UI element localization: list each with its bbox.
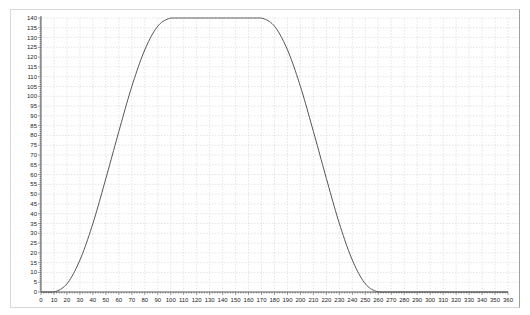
y-tick-label: 105 (27, 84, 38, 90)
x-tick-label: 180 (269, 297, 280, 303)
y-tick-label: 15 (30, 260, 37, 266)
x-tick-label: 310 (438, 297, 449, 303)
line-chart: 0510152025303540455055606570758085909510… (0, 0, 530, 315)
x-tick-label: 280 (399, 297, 410, 303)
y-tick-label: 140 (27, 15, 38, 21)
x-tick-label: 250 (360, 297, 371, 303)
x-tick-label: 270 (386, 297, 397, 303)
y-tick-label: 30 (30, 230, 37, 236)
y-tick-label: 65 (30, 162, 37, 168)
x-tick-label: 0 (39, 297, 43, 303)
x-tick-label: 360 (503, 297, 514, 303)
y-tick-label: 100 (27, 93, 38, 99)
x-tick-label: 350 (490, 297, 501, 303)
y-tick-label: 55 (30, 181, 37, 187)
x-tick-label: 50 (103, 297, 110, 303)
y-tick-label: 35 (30, 221, 37, 227)
x-tick-label: 260 (373, 297, 384, 303)
y-tick-label: 120 (27, 54, 38, 60)
y-tick-label: 10 (30, 269, 37, 275)
x-tick-label: 30 (77, 297, 84, 303)
y-tick-label: 110 (27, 74, 37, 80)
x-tick-label: 210 (308, 297, 319, 303)
y-tick-label: 135 (27, 25, 38, 31)
x-tick-label: 10 (51, 297, 58, 303)
x-tick-label: 40 (90, 297, 97, 303)
y-tick-label: 95 (30, 103, 37, 109)
y-axis-tick-labels: 0510152025303540455055606570758085909510… (27, 15, 38, 295)
y-tick-label: 0 (34, 289, 38, 295)
x-tick-label: 150 (231, 297, 242, 303)
x-tick-label: 170 (257, 297, 268, 303)
x-tick-label: 220 (321, 297, 332, 303)
y-tick-label: 125 (27, 44, 38, 50)
x-tick-label: 110 (179, 297, 189, 303)
x-tick-label: 200 (295, 297, 306, 303)
y-tick-label: 80 (30, 132, 37, 138)
y-tick-label: 70 (30, 152, 37, 158)
y-tick-label: 45 (30, 201, 37, 207)
y-tick-label: 85 (30, 123, 37, 129)
x-tick-label: 190 (282, 297, 293, 303)
x-tick-label: 160 (244, 297, 255, 303)
y-tick-label: 50 (30, 191, 37, 197)
y-tick-label: 25 (30, 240, 37, 246)
x-axis-tick-labels: 0102030405060708090100110120130140150160… (39, 297, 513, 303)
y-tick-label: 115 (27, 64, 37, 70)
x-tick-label: 140 (218, 297, 229, 303)
x-tick-label: 60 (115, 297, 122, 303)
y-tick-label: 20 (30, 250, 37, 256)
y-tick-label: 40 (30, 211, 37, 217)
x-tick-label: 20 (64, 297, 71, 303)
x-tick-label: 130 (205, 297, 216, 303)
y-tick-label: 5 (34, 279, 38, 285)
y-tick-label: 75 (30, 142, 37, 148)
x-tick-label: 320 (451, 297, 462, 303)
x-tick-label: 330 (464, 297, 475, 303)
y-tick-label: 130 (27, 35, 38, 41)
y-tick-label: 90 (30, 113, 37, 119)
y-tick-label: 60 (30, 172, 37, 178)
x-tick-label: 240 (347, 297, 358, 303)
x-tick-label: 100 (166, 297, 177, 303)
x-tick-label: 340 (477, 297, 488, 303)
x-tick-label: 290 (412, 297, 423, 303)
x-tick-label: 120 (192, 297, 203, 303)
x-tick-label: 70 (128, 297, 135, 303)
x-tick-label: 80 (141, 297, 148, 303)
x-tick-label: 230 (334, 297, 345, 303)
x-tick-label: 300 (425, 297, 436, 303)
x-tick-label: 90 (154, 297, 161, 303)
